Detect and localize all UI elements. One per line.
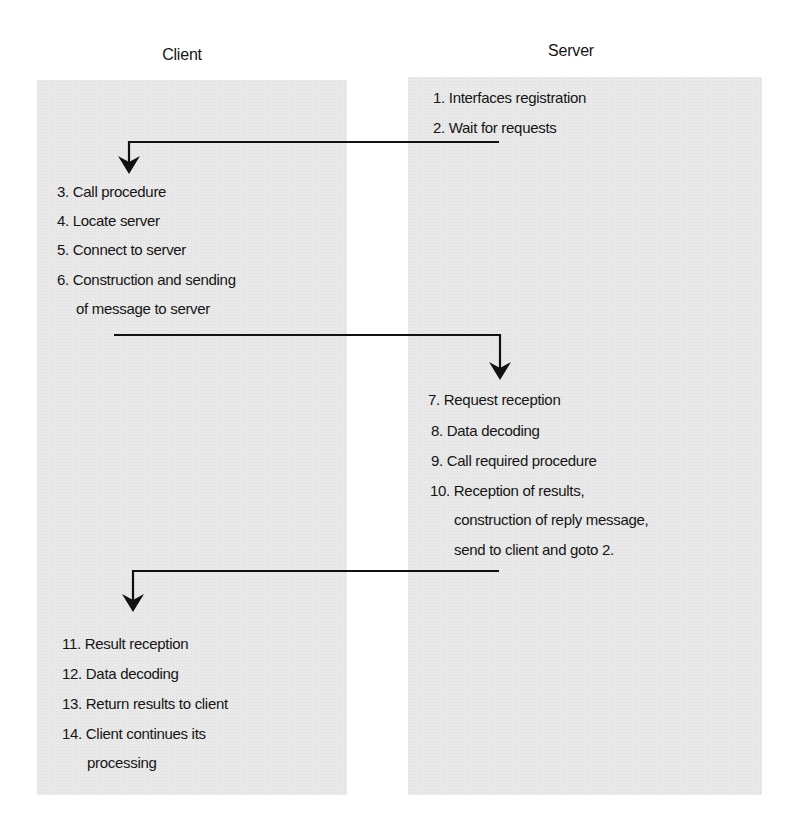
arrow-server-to-client-call — [118, 142, 499, 174]
arrow-client-to-server-request — [114, 335, 511, 380]
flow-arrows — [0, 0, 802, 835]
arrow-server-to-client-reply — [122, 571, 499, 612]
